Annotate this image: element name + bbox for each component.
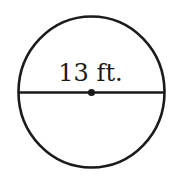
diameter-label: 13 ft. <box>58 59 122 87</box>
circle-diagram: 13 ft. <box>0 0 179 185</box>
center-point <box>88 89 95 96</box>
